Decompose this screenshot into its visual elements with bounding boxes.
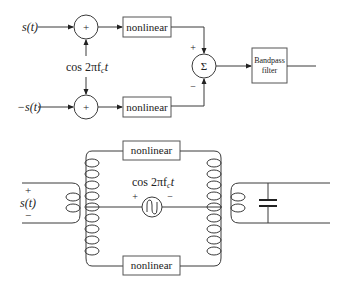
circuit-nonlinear-top-label: nonlinear — [131, 144, 173, 156]
carrier-label: cos 2πfct — [66, 60, 109, 75]
summer-minus: − — [190, 81, 196, 92]
balanced-modulator-circuit: + s(t) − nonlinear nonlinear — [20, 141, 330, 275]
input-signal-label: s(t) — [20, 196, 36, 210]
nonlinear-bottom-to-sum — [171, 79, 204, 106]
output-secondary-leads — [231, 183, 330, 223]
input-primary-coil — [66, 193, 80, 212]
filter-label-line1: Bandpass — [254, 56, 285, 65]
nonlinear-bottom-label: nonlinear — [126, 101, 168, 113]
right-primary-leads — [180, 151, 221, 266]
circuit-nonlinear-bottom-label: nonlinear — [131, 259, 173, 271]
left-secondary-leads — [86, 151, 123, 266]
input-top-label: s(t) — [22, 20, 38, 34]
tank-capacitor-icon — [259, 183, 277, 223]
summer-plus: + — [190, 42, 196, 53]
summer-symbol: Σ — [201, 60, 207, 72]
input-bottom-label: −s(t) — [17, 100, 41, 114]
adder-top-symbol: + — [83, 21, 89, 33]
source-minus: − — [167, 191, 173, 202]
ac-source-icon — [147, 200, 157, 214]
source-plus: + — [132, 191, 138, 202]
circuit-carrier-label: cos 2πfct — [132, 175, 175, 190]
adder-bottom-symbol: + — [83, 101, 89, 113]
input-plus: + — [25, 184, 31, 196]
output-secondary-coil — [231, 193, 245, 212]
filter-label-line2: filter — [262, 66, 278, 75]
input-minus: − — [25, 209, 31, 221]
nonlinear-top-to-sum — [171, 27, 204, 53]
balanced-modulator-block-diagram: s(t) + nonlinear cos 2πfct −s(t) + nonli… — [17, 15, 316, 119]
modulator-diagrams: s(t) + nonlinear cos 2πfct −s(t) + nonli… — [0, 0, 346, 287]
nonlinear-top-label: nonlinear — [126, 21, 168, 33]
